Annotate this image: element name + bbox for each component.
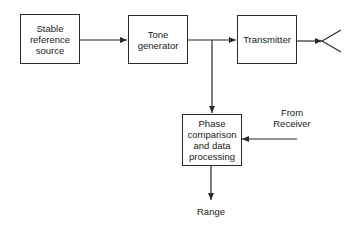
block-label: Stable reference source [21,23,79,56]
tone-generator-block: Tone generator [128,15,188,64]
antenna-icon [322,30,341,52]
from-receiver-label: From Receiver [262,107,322,129]
stable-reference-source-block: Stable reference source [20,14,80,64]
range-label: Range [186,206,236,217]
block-label: Phase comparison and data processing [185,118,239,162]
transmitter-block: Transmitter [237,15,297,64]
block-label: Transmitter [243,34,291,45]
phase-comparison-block: Phase comparison and data processing [182,114,242,166]
block-label: Tone generator [135,29,181,51]
